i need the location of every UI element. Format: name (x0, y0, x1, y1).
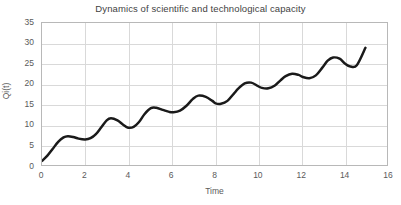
series-line-qi-t (42, 23, 387, 165)
y-tick-label: 15 (4, 100, 34, 109)
x-tick-label: 10 (244, 171, 272, 180)
y-tick-label: 20 (4, 79, 34, 88)
y-tick-label: 10 (4, 120, 34, 129)
x-axis-title: Time (41, 186, 388, 196)
x-tick-label: 4 (114, 171, 142, 180)
x-tick-label: 6 (157, 171, 185, 180)
x-tick-label: 0 (27, 171, 55, 180)
plot-area (41, 22, 388, 166)
x-tick-label: 14 (331, 171, 359, 180)
chart-title: Dynamics of scientific and technological… (0, 3, 401, 14)
x-tick-label: 16 (374, 171, 401, 180)
y-tick-label: 25 (4, 59, 34, 68)
y-tick-label: 30 (4, 38, 34, 47)
y-tick-label: 5 (4, 141, 34, 150)
x-tick-label: 2 (70, 171, 98, 180)
x-tick-label: 8 (201, 171, 229, 180)
y-tick-label: 0 (4, 162, 34, 171)
x-tick-label: 12 (287, 171, 315, 180)
chart-container: Dynamics of scientific and technological… (0, 0, 401, 205)
y-tick-label: 35 (4, 18, 34, 27)
